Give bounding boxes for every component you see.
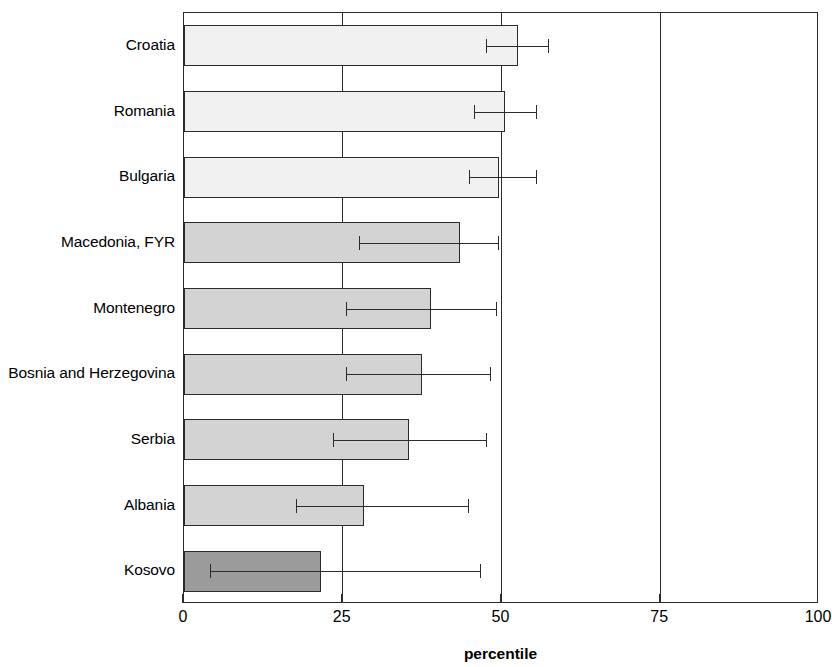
error-bar-cap-low bbox=[469, 170, 470, 184]
x-tick-label: 0 bbox=[179, 609, 188, 625]
error-bar-cap-high bbox=[536, 170, 537, 184]
error-bar bbox=[486, 46, 548, 47]
x-axis-title: percentile bbox=[183, 645, 818, 663]
error-bar-cap-low bbox=[346, 367, 347, 381]
error-bar-cap-low bbox=[210, 564, 211, 578]
error-bar bbox=[346, 309, 496, 310]
error-bar-cap-high bbox=[498, 236, 499, 250]
x-tick-0 bbox=[182, 594, 183, 603]
error-bar-cap-low bbox=[333, 433, 334, 447]
x-axis: 0255075100 bbox=[183, 603, 818, 604]
error-bar-cap-high bbox=[536, 105, 537, 119]
x-tick-label: 50 bbox=[492, 609, 510, 625]
category-label: Croatia bbox=[126, 37, 175, 53]
x-tick-label: 100 bbox=[805, 609, 832, 625]
bar bbox=[184, 157, 499, 198]
bar bbox=[184, 91, 505, 132]
category-axis-labels: CroatiaRomaniaBulgariaMacedonia, FYRMont… bbox=[0, 0, 175, 667]
category-label: Albania bbox=[124, 497, 175, 513]
category-label: Montenegro bbox=[93, 300, 175, 316]
gridline-75 bbox=[660, 13, 661, 602]
x-tick-label: 75 bbox=[650, 609, 668, 625]
error-bar-cap-high bbox=[486, 433, 487, 447]
error-bar-cap-high bbox=[496, 302, 497, 316]
error-bar-cap-high bbox=[548, 39, 549, 53]
x-tick-label: 25 bbox=[333, 609, 351, 625]
error-bar bbox=[210, 571, 480, 572]
category-label: Romania bbox=[114, 103, 175, 119]
error-bar-cap-low bbox=[359, 236, 360, 250]
error-bar-cap-high bbox=[490, 367, 491, 381]
error-bar bbox=[474, 112, 536, 113]
category-label: Kosovo bbox=[124, 562, 175, 578]
error-bar-cap-low bbox=[296, 499, 297, 513]
bar bbox=[184, 25, 518, 66]
x-tick-50 bbox=[500, 594, 501, 603]
error-bar bbox=[469, 177, 536, 178]
plot-area bbox=[183, 12, 818, 603]
error-bar-cap-low bbox=[474, 105, 475, 119]
category-label: Serbia bbox=[131, 431, 175, 447]
error-bar-cap-high bbox=[480, 564, 481, 578]
error-bar bbox=[346, 374, 490, 375]
x-tick-25 bbox=[341, 594, 342, 603]
category-label: Bulgaria bbox=[119, 168, 175, 184]
error-bar-cap-low bbox=[346, 302, 347, 316]
error-bar-cap-low bbox=[486, 39, 487, 53]
category-label: Macedonia, FYR bbox=[61, 234, 175, 250]
x-tick-100 bbox=[817, 594, 818, 603]
error-bar bbox=[296, 506, 468, 507]
error-bar bbox=[333, 440, 486, 441]
x-tick-75 bbox=[659, 594, 660, 603]
category-label: Bosnia and Herzegovina bbox=[8, 365, 175, 381]
bar-chart: CroatiaRomaniaBulgariaMacedonia, FYRMont… bbox=[0, 0, 832, 667]
error-bar bbox=[359, 243, 497, 244]
error-bar-cap-high bbox=[468, 499, 469, 513]
